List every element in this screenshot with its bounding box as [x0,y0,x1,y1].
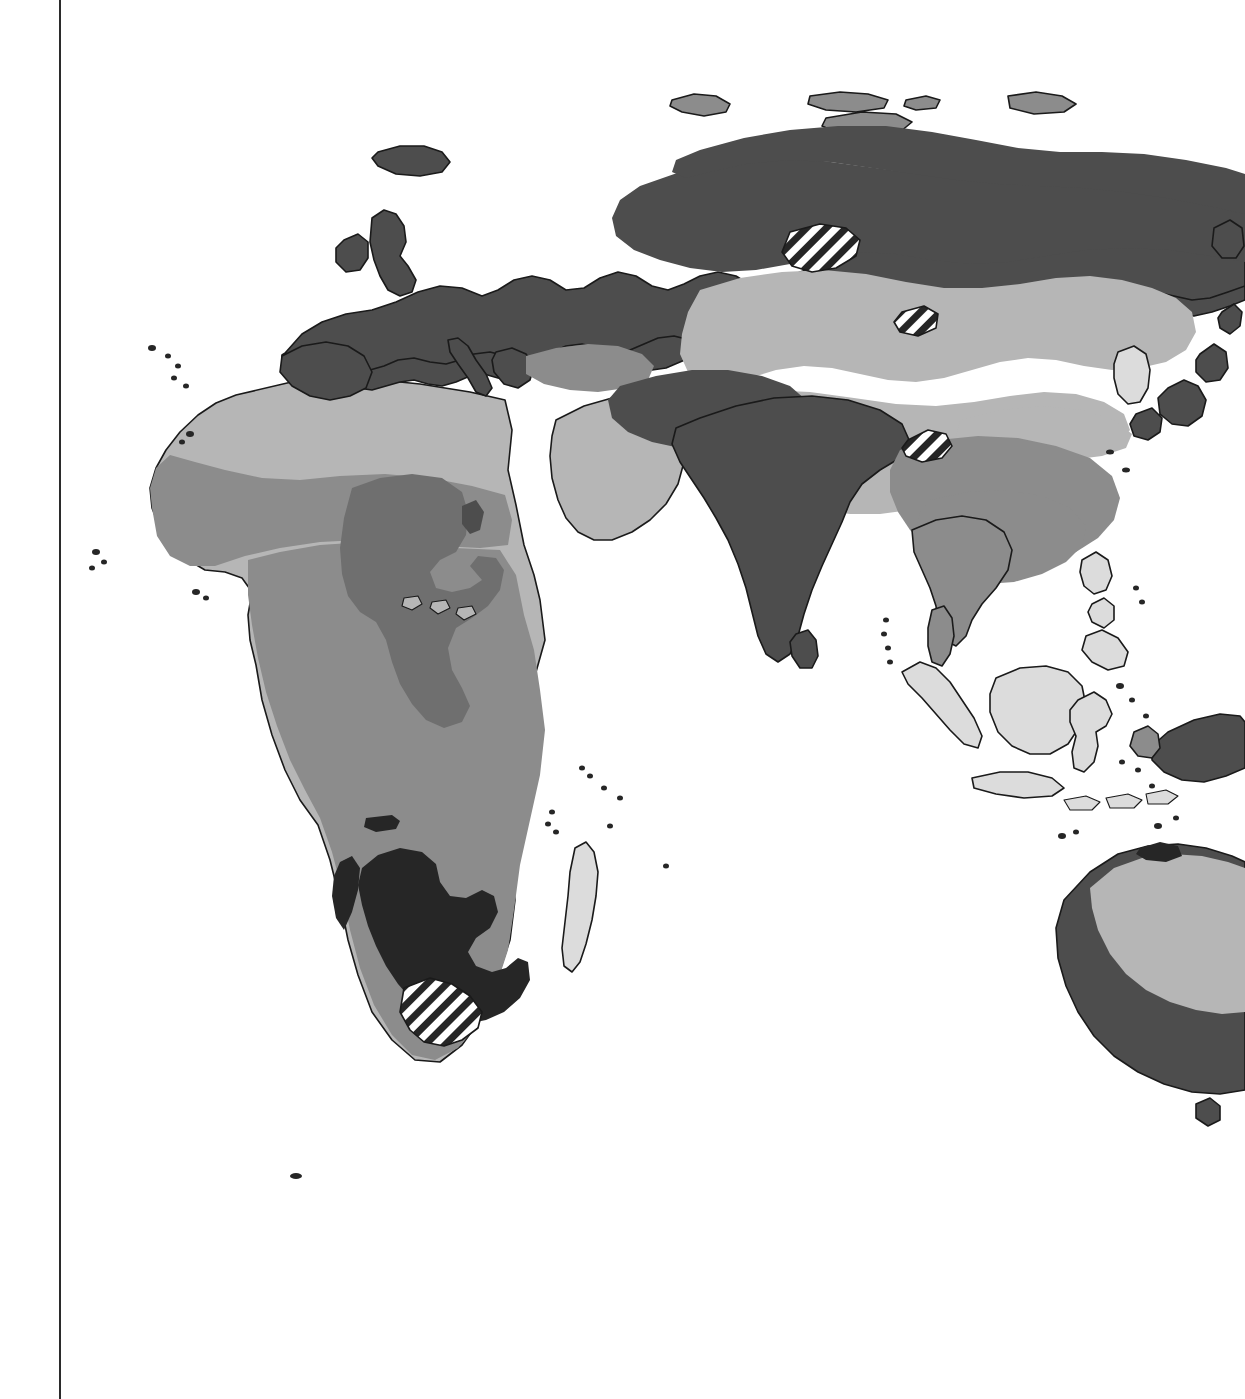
world-thematic-map [0,0,1245,1399]
region-halmahera [1130,726,1160,758]
region-ireland [336,234,368,272]
region-malay [928,606,954,666]
region-sri-lanka [790,630,818,668]
region-svalbard [670,94,730,116]
region-philippines [1080,552,1128,670]
region-indochina [912,516,1012,646]
atlas-page [0,0,1245,1399]
region-new-guinea [1152,714,1245,782]
region-korea [1114,346,1150,404]
region-madagascar [562,842,598,972]
region-sulawesi [1070,692,1112,772]
region-iceland [372,146,450,176]
region-lesser-sunda [1064,790,1178,810]
region-java [972,772,1064,798]
region-tasmania [1196,1098,1220,1126]
region-sumatra [902,662,982,748]
region-british-isles [370,210,416,296]
region-india [672,396,910,662]
